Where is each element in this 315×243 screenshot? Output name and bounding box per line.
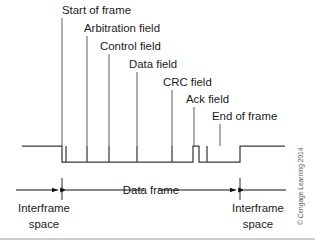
waveform-group (22, 146, 285, 162)
diagram-canvas: Start of frame Arbitration field Control… (0, 0, 315, 243)
callout-label-start-of-frame: Start of frame (62, 4, 131, 16)
callout-label-end-of-frame: End of frame (212, 110, 277, 122)
callout-data-field: Data field (129, 58, 177, 146)
dimension-group: Data frame Interframe space Interframe s… (16, 178, 286, 230)
callout-label-control-field: Control field (100, 40, 161, 52)
interframe-space-left-label-line1: Interframe (18, 202, 70, 214)
data-frame-label: Data frame (123, 184, 179, 196)
interframe-space-right-label-line2: space (243, 218, 273, 230)
callout-label-arbitration-field: Arbitration field (84, 22, 160, 34)
interframe-space-right-label-line1: Interframe (232, 202, 284, 214)
callout-end-of-frame: End of frame (212, 110, 277, 146)
waveform-signal-path (22, 146, 285, 162)
callout-group: Start of frame Arbitration field Control… (62, 4, 277, 146)
can-frame-diagram: Start of frame Arbitration field Control… (0, 0, 315, 243)
interframe-space-left-label-line2: space (29, 218, 59, 230)
callout-control-field: Control field (100, 40, 161, 146)
callout-crc-field: CRC field (163, 76, 212, 146)
callout-label-crc-field: CRC field (163, 76, 212, 88)
copyright-credit: © Cengage Learning 2014 (297, 147, 305, 225)
callout-label-ack-field: Ack field (186, 93, 229, 105)
callout-label-data-field: Data field (129, 58, 177, 70)
